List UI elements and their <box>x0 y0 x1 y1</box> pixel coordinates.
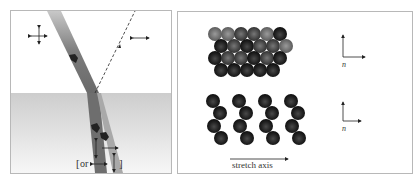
or-label: or <box>80 158 88 169</box>
bracket-close: ] <box>119 157 123 169</box>
stretching-panel: n n stretch axis <box>177 11 413 174</box>
reflected-ray-arrowhead <box>118 44 121 48</box>
stretched-chains <box>206 94 306 145</box>
chain-2 <box>232 94 254 145</box>
stretch-axis-label: stretch axis <box>232 160 273 170</box>
chain-1 <box>206 94 228 145</box>
chain-3 <box>258 94 280 145</box>
axis-icon-top <box>343 35 365 57</box>
axis-label-n-bottom: n <box>342 124 346 133</box>
refraction-diagram <box>11 11 171 173</box>
unstretched-lattice <box>208 27 293 77</box>
molecular-packing-diagram <box>178 12 412 173</box>
reflected-ray <box>95 11 135 93</box>
incident-beam <box>47 11 99 93</box>
axis-icon-bottom <box>343 102 361 121</box>
axis-label-n-top: n <box>342 60 346 69</box>
chain-4 <box>284 94 306 145</box>
unpolarized-icon <box>31 28 47 44</box>
refraction-panel: [ or ] <box>10 10 172 174</box>
